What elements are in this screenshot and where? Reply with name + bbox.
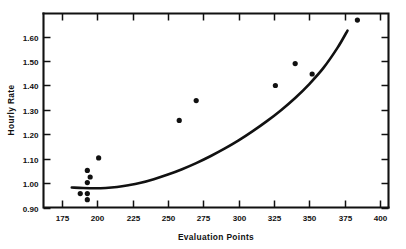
y-axis-title: Hourly Rate bbox=[6, 85, 16, 136]
data-point bbox=[78, 191, 83, 196]
plot-frame bbox=[44, 14, 389, 208]
x-tick-label: 375 bbox=[339, 214, 353, 223]
data-points bbox=[78, 17, 360, 202]
x-tick-label: 275 bbox=[197, 214, 211, 223]
x-tick-label: 325 bbox=[268, 214, 282, 223]
scatter-plot: 0.901.001.101.201.301.401.501.60 1752002… bbox=[0, 0, 406, 249]
x-tick-label: 200 bbox=[91, 214, 105, 223]
plot-border bbox=[44, 14, 389, 208]
axis-lines bbox=[44, 14, 389, 208]
y-tick-label: 1.10 bbox=[23, 156, 39, 165]
x-tick-label: 250 bbox=[162, 214, 176, 223]
data-point bbox=[310, 71, 315, 76]
y-tick-label: 1.00 bbox=[23, 180, 39, 189]
data-point bbox=[85, 168, 90, 173]
y-tick-label: 1.20 bbox=[23, 131, 39, 140]
data-point bbox=[88, 174, 93, 179]
x-axis-tick-labels: 175200225250275300325350375400 bbox=[56, 214, 388, 223]
y-tick-label: 0.90 bbox=[23, 205, 39, 214]
y-tick-label: 1.60 bbox=[23, 34, 39, 43]
x-tick-label: 300 bbox=[233, 214, 247, 223]
data-point bbox=[355, 17, 360, 22]
data-point bbox=[273, 83, 278, 88]
chart-figure: 0.901.001.101.201.301.401.501.60 1752002… bbox=[0, 0, 406, 249]
y-tick-label: 1.50 bbox=[23, 58, 39, 67]
data-point bbox=[177, 118, 182, 123]
data-point bbox=[85, 197, 90, 202]
y-tick-label: 1.30 bbox=[23, 107, 39, 116]
fitted-curve bbox=[72, 31, 348, 189]
x-tick-label: 175 bbox=[56, 214, 70, 223]
data-point bbox=[85, 180, 90, 185]
x-tick-label: 225 bbox=[127, 214, 141, 223]
data-point bbox=[96, 155, 101, 160]
x-tick-label: 350 bbox=[303, 214, 317, 223]
y-axis-tick-labels: 0.901.001.101.201.301.401.501.60 bbox=[23, 34, 39, 214]
y-tick-label: 1.40 bbox=[23, 82, 39, 91]
data-point bbox=[85, 191, 90, 196]
x-axis-title: Evaluation Points bbox=[178, 232, 254, 242]
x-tick-label: 400 bbox=[374, 214, 388, 223]
data-point bbox=[293, 61, 298, 66]
data-point bbox=[194, 98, 199, 103]
